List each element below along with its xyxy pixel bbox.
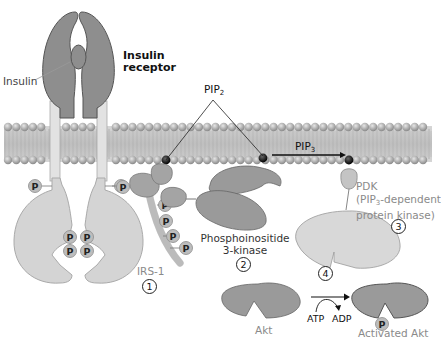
lipid-head: [70, 123, 78, 131]
lipid-head: [311, 123, 319, 131]
lipid-head: [87, 156, 95, 164]
lipid-head: [170, 123, 178, 131]
lipid-head: [402, 156, 410, 164]
pi3k-label: Phosphoinositide 3-kinase: [195, 232, 295, 256]
lipid-head: [386, 123, 394, 131]
lipid-head: [328, 123, 336, 131]
insulin-receptor-extracellular: [35, 12, 114, 118]
pip-lipid-head: [259, 154, 268, 163]
insulin-molecule: [71, 45, 86, 69]
lipid-head: [278, 123, 286, 131]
lipid-head: [294, 123, 302, 131]
lipid-head: [303, 123, 311, 131]
lipid-head: [369, 156, 377, 164]
lipid-head: [20, 156, 28, 164]
lipid-head: [120, 156, 128, 164]
lipid-head: [419, 156, 427, 164]
lipid-head: [12, 156, 20, 164]
lipid-head: [162, 123, 170, 131]
lipid-head: [20, 123, 28, 131]
lipid-head: [344, 123, 352, 131]
lipid-head: [178, 156, 186, 164]
lipid-head: [70, 156, 78, 164]
lipid-head: [79, 123, 87, 131]
lipid-head: [37, 123, 45, 131]
lipid-head: [186, 123, 194, 131]
lipid-head: [369, 123, 377, 131]
lipid-head: [29, 123, 37, 131]
step-1-marker: 1: [142, 279, 157, 294]
lipid-head: [137, 123, 145, 131]
pip2-text: PIP: [204, 83, 220, 95]
phosphate-receptor-left: [29, 180, 42, 193]
pi3k-regulatory-subunit: [130, 164, 196, 207]
lipid-head: [211, 156, 219, 164]
lipid-head: [112, 123, 120, 131]
activated-akt-protein: [352, 283, 428, 331]
lipid-head: [269, 123, 277, 131]
lipid-head: [336, 123, 344, 131]
label-line: 3-kinase: [195, 244, 295, 256]
lipid-head: [220, 123, 228, 131]
lipid-head: [170, 156, 178, 164]
lipid-head: [37, 156, 45, 164]
akt-protein: [222, 283, 300, 318]
lipid-head: [361, 156, 369, 164]
lipid-head: [377, 123, 385, 131]
lipid-head: [4, 123, 12, 131]
phosphate-kinase-3: [81, 231, 94, 244]
lipid-head: [286, 156, 294, 164]
lipid-head: [253, 123, 261, 131]
insulin-label: Insulin: [3, 75, 37, 87]
lipid-head: [79, 156, 87, 164]
cell-membrane: [4, 123, 432, 165]
lipid-head: [352, 123, 360, 131]
lipid-head: [153, 123, 161, 131]
lipid-head: [294, 156, 302, 164]
lipid-head: [186, 156, 194, 164]
akt-label: Akt: [255, 324, 272, 336]
lipid-head: [245, 156, 253, 164]
lipid-head: [394, 123, 402, 131]
lipid-head: [153, 156, 161, 164]
label-text: (PIP: [356, 193, 376, 205]
phosphate-kinase-1: [64, 231, 77, 244]
phosphorylation-arrow: [311, 294, 350, 313]
pip-lipid-head: [345, 156, 354, 165]
insulin-receptor-label: Insulin receptor: [123, 50, 176, 74]
pdk-label: PDK (PIP3-dependent protein kinase): [356, 180, 441, 222]
lipid-head: [203, 123, 211, 131]
lipid-head: [261, 123, 269, 131]
lipid-head: [145, 156, 153, 164]
receptor-kinase-domain-left: [14, 178, 72, 283]
pip2-label: PIP2: [204, 83, 224, 99]
lipid-head: [195, 123, 203, 131]
lipid-head: [286, 123, 294, 131]
lipid-head: [228, 123, 236, 131]
atp-label: ATP: [307, 313, 324, 325]
lipid-head: [361, 123, 369, 131]
lipid-head: [62, 156, 70, 164]
lipid-head: [137, 156, 145, 164]
lipid-head: [328, 156, 336, 164]
lipid-head: [87, 123, 95, 131]
lipid-head: [228, 156, 236, 164]
lipid-head: [411, 156, 419, 164]
lipid-head: [269, 156, 277, 164]
lipid-head: [311, 156, 319, 164]
lipid-head: [112, 156, 120, 164]
lipid-head: [377, 156, 385, 164]
lipid-head: [62, 123, 70, 131]
pip3-subscript: 3: [311, 146, 315, 154]
lipid-head: [386, 156, 394, 164]
label-line: PDK: [356, 180, 441, 193]
label-line: receptor: [123, 62, 176, 74]
lipid-head: [145, 123, 153, 131]
pip2-subscript: 2: [220, 89, 224, 97]
lipid-head: [29, 156, 37, 164]
label-text: -dependent: [380, 193, 441, 205]
lipid-head: [319, 156, 327, 164]
lipid-head: [411, 123, 419, 131]
lipid-head: [220, 156, 228, 164]
